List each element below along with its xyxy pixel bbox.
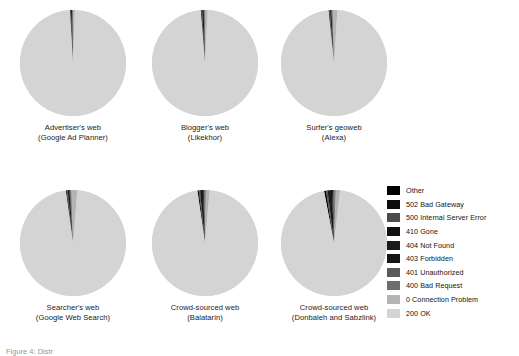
pie-cell-bloggers-web: Blogger's web (Likekhor) xyxy=(141,8,269,143)
legend-row: Other xyxy=(387,184,519,198)
pie-caption-line2: (Google Ad Planner) xyxy=(9,133,137,143)
legend-label: 404 Not Found xyxy=(406,241,454,250)
legend-row: 502 Bad Gateway xyxy=(387,198,519,212)
pie-chart-advertisers-web xyxy=(18,8,128,118)
pie-chart-searchers-web xyxy=(18,188,128,298)
figure-caption: Figure 4: Distr xyxy=(6,347,53,356)
pie-caption-line1: Blogger's web xyxy=(181,123,229,132)
legend-row: 401 Unauthorized xyxy=(387,266,519,280)
pie-caption-crowd-sourced-donbaleh-sabzlink: Crowd-sourced web (Donbaleh and Sabzlink… xyxy=(270,303,398,323)
legend-row: 403 Forbidden xyxy=(387,252,519,266)
pie-caption-line2: (Alexa) xyxy=(270,133,398,143)
pie-chart-crowd-sourced-donbaleh-sabzlink xyxy=(279,188,389,298)
chart-legend: Other502 Bad Gateway500 Internal Server … xyxy=(387,184,519,320)
pie-caption-line1: Advertiser's web xyxy=(45,123,101,132)
pie-cell-advertisers-web: Advertiser's web (Google Ad Planner) xyxy=(9,8,137,143)
legend-row: 200 OK xyxy=(387,306,519,320)
legend-row: 400 Bad Request xyxy=(387,279,519,293)
pie-caption-line2: (Donbaleh and Sabzlink) xyxy=(270,313,398,323)
pie-caption-bloggers-web: Blogger's web (Likekhor) xyxy=(141,123,269,143)
pie-caption-line1: Crowd-sourced web xyxy=(171,303,239,312)
legend-row: 0 Connection Problem xyxy=(387,293,519,307)
pie-svg-surfers-geoweb xyxy=(279,8,389,118)
pie-cell-surfers-geoweb: Surfer's geoweb (Alexa) xyxy=(270,8,398,143)
legend-label: 401 Unauthorized xyxy=(406,268,464,277)
pie-svg-crowd-sourced-donbaleh-sabzlink xyxy=(279,188,389,298)
pie-caption-surfers-geoweb: Surfer's geoweb (Alexa) xyxy=(270,123,398,143)
legend-swatch xyxy=(387,227,400,236)
legend-label: 410 Gone xyxy=(406,227,438,236)
legend-label: 502 Bad Gateway xyxy=(406,200,464,209)
pie-caption-advertisers-web: Advertiser's web (Google Ad Planner) xyxy=(9,123,137,143)
legend-swatch xyxy=(387,281,400,290)
legend-label: 400 Bad Request xyxy=(406,281,462,290)
pie-svg-searchers-web xyxy=(18,188,128,298)
legend-label: 403 Forbidden xyxy=(406,254,453,263)
pie-cell-searchers-web: Searcher's web (Google Web Search) xyxy=(9,188,137,323)
legend-row: 404 Not Found xyxy=(387,238,519,252)
legend-swatch xyxy=(387,186,400,195)
pie-caption-searchers-web: Searcher's web (Google Web Search) xyxy=(9,303,137,323)
pie-svg-advertisers-web xyxy=(18,8,128,118)
legend-swatch xyxy=(387,254,400,263)
pie-cell-crowd-sourced-donbaleh-sabzlink: Crowd-sourced web (Donbaleh and Sabzlink… xyxy=(270,188,398,323)
pie-caption-line1: Crowd-sourced web xyxy=(300,303,368,312)
legend-row: 500 Internal Server Error xyxy=(387,211,519,225)
legend-row: 410 Gone xyxy=(387,225,519,239)
legend-label: 0 Connection Problem xyxy=(406,295,478,304)
pie-svg-bloggers-web xyxy=(150,8,260,118)
pie-chart-crowd-sourced-balatarin xyxy=(150,188,260,298)
pie-chart-surfers-geoweb xyxy=(279,8,389,118)
pie-caption-line1: Searcher's web xyxy=(47,303,100,312)
pie-caption-crowd-sourced-balatarin: Crowd-sourced web (Balatarin) xyxy=(141,303,269,323)
pie-caption-line1: Surfer's geoweb xyxy=(306,123,361,132)
legend-swatch xyxy=(387,295,400,304)
legend-label: 200 OK xyxy=(406,309,431,318)
legend-swatch xyxy=(387,309,400,318)
legend-swatch xyxy=(387,213,400,222)
pie-caption-line2: (Balatarin) xyxy=(141,313,269,323)
legend-swatch xyxy=(387,200,400,209)
pie-chart-bloggers-web xyxy=(150,8,260,118)
legend-swatch xyxy=(387,268,400,277)
pie-caption-line2: (Google Web Search) xyxy=(9,313,137,323)
legend-label: 500 Internal Server Error xyxy=(406,213,486,222)
pie-caption-line2: (Likekhor) xyxy=(141,133,269,143)
pie-cell-crowd-sourced-balatarin: Crowd-sourced web (Balatarin) xyxy=(141,188,269,323)
pie-svg-crowd-sourced-balatarin xyxy=(150,188,260,298)
legend-swatch xyxy=(387,241,400,250)
legend-label: Other xyxy=(406,186,424,195)
